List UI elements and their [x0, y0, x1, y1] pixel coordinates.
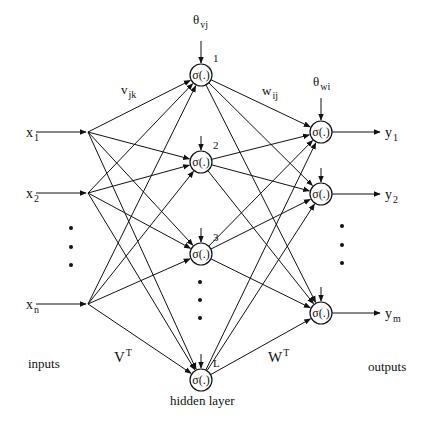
edge-h3-ym: [211, 259, 310, 308]
hidden-node-index: 3: [213, 231, 219, 243]
output-label-ym: ym: [385, 306, 401, 324]
output-weight-label: wij: [262, 83, 278, 101]
edge-h3-y2: [211, 199, 310, 249]
input-ellipsis-dot: [69, 245, 73, 249]
input-label-x2: x2: [26, 186, 39, 204]
hidden-layer-label: hidden layer: [170, 393, 235, 408]
edge-xn-h3: [88, 259, 190, 304]
neural-network-diagram: σ(.)1σ(.)2σ(.)3σ(.)Lσ(.)σ(.)σ(.) inputs …: [0, 0, 428, 430]
edge-x2-hL: [88, 193, 195, 370]
edge-xn-h2: [88, 171, 194, 304]
inputs-label: inputs: [28, 356, 60, 371]
hidden-bias-label: θvj: [193, 12, 208, 30]
hidden-weight-label: vjk: [121, 82, 136, 100]
output-ellipsis-dot: [340, 243, 344, 247]
output-node-ym: σ(.): [310, 302, 332, 324]
edge-x2-h1: [88, 84, 193, 193]
edge-h1-y2: [209, 83, 313, 186]
output-label-y1: y1: [385, 125, 398, 143]
edge-xn-h1: [88, 86, 196, 304]
hidden-node-h2: σ(.)2: [190, 139, 219, 173]
hidden-node-index: L: [213, 357, 220, 369]
input-label-xn: xn: [26, 297, 39, 315]
input-label-x1: x1: [26, 125, 39, 143]
activation-label: σ(.): [192, 68, 209, 82]
output-ellipsis-dot: [340, 224, 344, 228]
hidden-node-index: 1: [213, 52, 219, 64]
hidden-node-h3: σ(.)3: [190, 231, 219, 265]
edge-x1-h1: [88, 80, 190, 132]
hidden-node-index: 2: [213, 139, 219, 151]
activation-label: σ(.): [312, 187, 329, 201]
activation-label: σ(.): [192, 247, 209, 261]
output-label-y2: y2: [385, 187, 398, 205]
output-node-y1: σ(.): [310, 121, 332, 143]
edge-h2-y1: [212, 135, 310, 159]
outputs-label: outputs: [368, 359, 406, 374]
edge-h1-y1: [211, 80, 310, 127]
output-matrix-label: WT: [268, 347, 289, 365]
input-ellipsis-dot: [69, 263, 73, 267]
activation-label: σ(.): [312, 306, 329, 320]
edge-hL-y2: [207, 204, 315, 371]
hidden-matrix-label: VT: [114, 347, 132, 365]
edge-hL-ym: [211, 319, 311, 375]
input-ellipsis-dot: [69, 226, 73, 230]
output-ellipsis-dot: [340, 261, 344, 265]
activation-label: σ(.): [312, 125, 329, 139]
activation-label: σ(.): [192, 373, 209, 387]
activation-label: σ(.): [192, 155, 209, 169]
hidden-ellipsis-dot: [198, 298, 202, 302]
hidden-node-hL: σ(.)L: [190, 357, 220, 391]
hidden-ellipsis-dot: [198, 316, 202, 320]
edge-x2-h2: [88, 165, 189, 193]
output-node-y2: σ(.): [310, 183, 332, 205]
hidden-ellipsis-dot: [198, 280, 202, 284]
output-bias-label: θwi: [313, 74, 330, 92]
network-canvas: σ(.)1σ(.)2σ(.)3σ(.)Lσ(.)σ(.)σ(.) inputs …: [0, 0, 428, 430]
edge-hL-y1: [206, 143, 316, 370]
edge-x1-h2: [88, 132, 189, 159]
